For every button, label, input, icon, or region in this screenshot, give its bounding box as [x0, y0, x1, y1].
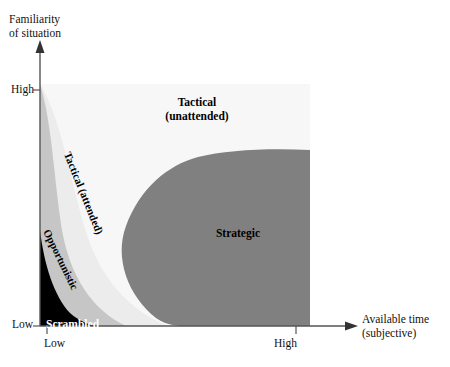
region-label-strategic: Strategic: [216, 227, 260, 239]
y-axis-arrowhead: [36, 40, 45, 53]
region-label-scrambled: Scrambled: [46, 318, 99, 330]
x-axis-arrowhead: [345, 322, 358, 331]
y-tick-label-high: High: [11, 83, 34, 95]
x-axis-title-line1: Available time: [362, 312, 429, 326]
x-axis-title-line2: (subjective): [362, 326, 429, 340]
region-label-tactical-unattended-line1: Tactical: [165, 95, 228, 109]
x-tick-label-low: Low: [44, 337, 65, 349]
y-axis-title-line2: of situation: [9, 26, 61, 40]
region-label-tactical-unattended-line2: (unattended): [165, 109, 228, 123]
x-axis-title: Available time (subjective): [362, 312, 429, 340]
y-axis-title-line1: Familiarity: [9, 12, 61, 26]
y-axis-title: Familiarity of situation: [9, 12, 61, 40]
region-label-tactical-unattended: Tactical (unattended): [165, 95, 228, 123]
x-tick-label-high: High: [274, 337, 297, 349]
y-tick-label-low: Low: [12, 318, 33, 330]
